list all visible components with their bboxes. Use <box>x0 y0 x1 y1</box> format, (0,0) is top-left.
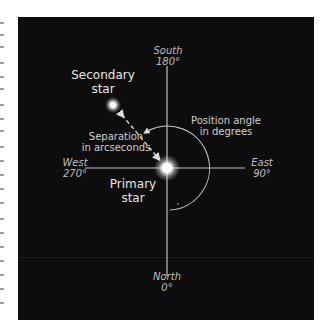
separation-label-line2: in arcseconds <box>78 142 154 153</box>
secondary-label-line1: Secondary <box>68 68 138 82</box>
south-label: South 180° <box>151 45 185 67</box>
secondary-star-label: Secondary star <box>68 68 138 96</box>
north-label: North 0° <box>150 271 184 293</box>
east-label: East 90° <box>248 157 276 179</box>
north-angle: 0° <box>150 282 184 293</box>
primary-star-label: Primary star <box>108 177 158 205</box>
separation-label-line1: Separation <box>78 131 154 142</box>
north-name: North <box>150 271 184 282</box>
secondary-star <box>105 97 121 113</box>
west-name: West <box>60 157 90 168</box>
position-angle-label: Position angle in degrees <box>186 115 266 137</box>
primary-label-line2: star <box>108 191 158 205</box>
east-name: East <box>248 157 276 168</box>
primary-label-line1: Primary <box>108 177 158 191</box>
east-angle: 90° <box>248 168 276 179</box>
south-name: South <box>151 45 185 56</box>
secondary-label-line2: star <box>68 82 138 96</box>
west-angle: 270° <box>60 168 90 179</box>
position-label-line2: in degrees <box>186 126 266 137</box>
west-label: West 270° <box>60 157 90 179</box>
south-angle: 180° <box>151 56 185 67</box>
separation-label: Separation in arcseconds <box>78 131 154 153</box>
position-label-line1: Position angle <box>186 115 266 126</box>
